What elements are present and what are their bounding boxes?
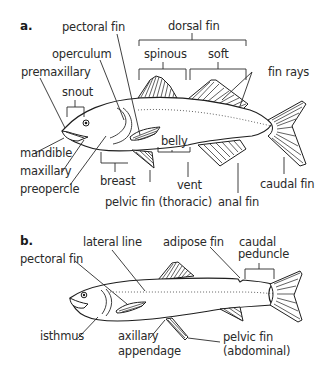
anal-fin-b <box>220 307 243 321</box>
label-snout: snout <box>62 85 94 99</box>
diagram-a: a. <box>20 19 314 209</box>
caudal-peduncle-bracket <box>245 263 274 279</box>
label-pectoral-fin: pectoral fin <box>62 20 125 34</box>
label-breast: breast <box>100 174 136 188</box>
label-premaxillary: premaxillary <box>21 65 91 79</box>
soft-bracket <box>190 62 246 80</box>
label-pelvic-fin-thoracic: pelvic fin (thoracic) <box>105 195 212 209</box>
label-caudal-fin: caudal fin <box>260 177 314 191</box>
label-peduncle: peduncle <box>238 247 289 261</box>
dorsal-fin-bracket <box>139 33 246 46</box>
label-pelvic-fin-b: pelvic fin <box>223 330 273 344</box>
panel-label-b: b. <box>20 234 33 248</box>
label-appendage: appendage <box>118 344 181 358</box>
anal-fin-a <box>198 140 246 166</box>
label-soft: soft <box>208 47 229 61</box>
label-vent: vent <box>177 178 203 192</box>
spinous-dorsal-fin <box>138 76 177 98</box>
caudal-fin-b <box>270 271 302 322</box>
spinous-bracket <box>139 62 186 80</box>
diagram-b: b. <box>20 234 302 358</box>
fish-anatomy-diagram: a. <box>0 0 321 373</box>
label-anal-fin: anal fin <box>218 195 259 209</box>
label-adipose-fin: adipose fin <box>163 235 224 249</box>
label-spinous: spinous <box>144 47 187 61</box>
panel-label-a: a. <box>20 19 33 33</box>
label-mandible: mandible <box>20 146 72 160</box>
label-belly: belly <box>161 134 188 148</box>
label-dorsal-fin: dorsal fin <box>168 19 220 33</box>
label-preopercle: preopercle <box>20 182 79 196</box>
label-fin-rays: fin rays <box>268 65 309 79</box>
pelvic-fin-a <box>132 150 154 168</box>
label-lateral-line: lateral line <box>83 235 142 249</box>
label-axillary: axillary <box>118 329 159 343</box>
breast-bracket <box>101 152 128 172</box>
label-pectoral-fin-b: pectoral fin <box>20 252 83 266</box>
label-maxillary: maxillary <box>20 164 72 178</box>
caudal-fin-a <box>268 101 306 166</box>
label-isthmus: isthmus <box>40 329 84 343</box>
label-operculum: operculum <box>52 47 111 61</box>
dorsal-fin-b <box>158 262 194 280</box>
pelvic-fin-b <box>166 318 188 340</box>
label-abdominal: (abdominal) <box>223 344 290 358</box>
